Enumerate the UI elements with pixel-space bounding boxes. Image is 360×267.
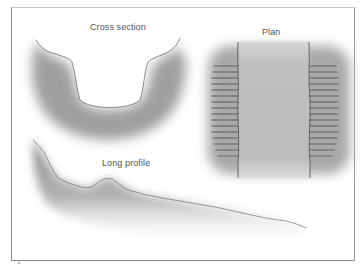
cross-section-label: Cross section <box>90 22 146 32</box>
plan-label: Plan <box>262 27 280 37</box>
plan-channel <box>238 42 310 178</box>
corner-mark <box>18 262 20 264</box>
long-profile-label: Long profile <box>102 158 150 168</box>
plan-panel <box>208 42 350 178</box>
diagram-canvas <box>0 0 360 267</box>
cross-section-panel <box>32 30 186 140</box>
